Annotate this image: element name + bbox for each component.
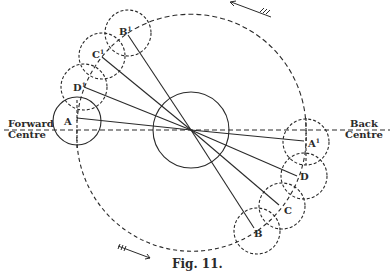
crank-line-B [191, 130, 254, 228]
rotation-arrow-bottom-icon [118, 244, 150, 259]
forward-centre-label: Forward Centre [8, 118, 54, 140]
crank-line-D [191, 130, 297, 176]
label-B: B [254, 229, 262, 239]
crank-line-A1 [191, 130, 304, 141]
crank-line-A [77, 118, 191, 130]
label-A1: A1 [308, 136, 320, 149]
label-D1: D1 [73, 80, 86, 93]
crank-line-B1 [128, 35, 191, 130]
pin-circle-C [259, 183, 305, 229]
label-C1: C1 [92, 47, 104, 60]
crank-line-D1 [84, 87, 191, 130]
label-C: C [284, 206, 292, 216]
rotation-arrow-top-icon [230, 1, 271, 17]
label-A: A [64, 117, 72, 127]
label-D: D [300, 172, 309, 182]
crank-orbit-arc-upper [128, 14, 306, 130]
figure-caption: Fig. 11. [172, 257, 223, 271]
label-B1: B1 [119, 24, 132, 37]
back-centre-label: Back Centre [345, 118, 383, 140]
crank-line-C1 [102, 57, 191, 130]
crank-line-C [191, 130, 279, 205]
crank-diagram [0, 0, 391, 275]
